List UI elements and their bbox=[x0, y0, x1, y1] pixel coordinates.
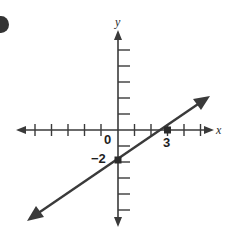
x-intercept-tick-label: 3 bbox=[163, 136, 170, 149]
x-axis-left-arrow-icon bbox=[16, 126, 26, 134]
graph-figure: y x 0 3 −2 bbox=[0, 0, 231, 230]
line-upper-arrow-icon bbox=[193, 96, 210, 110]
origin-tick-label: 0 bbox=[104, 133, 111, 146]
y-axis-ticks-positive bbox=[118, 50, 130, 114]
line-lower-arrow-icon bbox=[27, 206, 44, 221]
coordinate-plane bbox=[0, 0, 231, 230]
x-axis-right-arrow-icon bbox=[204, 126, 214, 134]
y-intercept-tick-label: −2 bbox=[91, 152, 106, 165]
y-axis-label: y bbox=[115, 16, 120, 28]
y-axis-up-arrow-icon bbox=[114, 30, 122, 40]
point-marker-x-intercept bbox=[164, 127, 171, 134]
y-axis-down-arrow-icon bbox=[114, 217, 122, 227]
point-marker-y-intercept bbox=[115, 157, 122, 164]
x-axis-label: x bbox=[216, 124, 221, 136]
